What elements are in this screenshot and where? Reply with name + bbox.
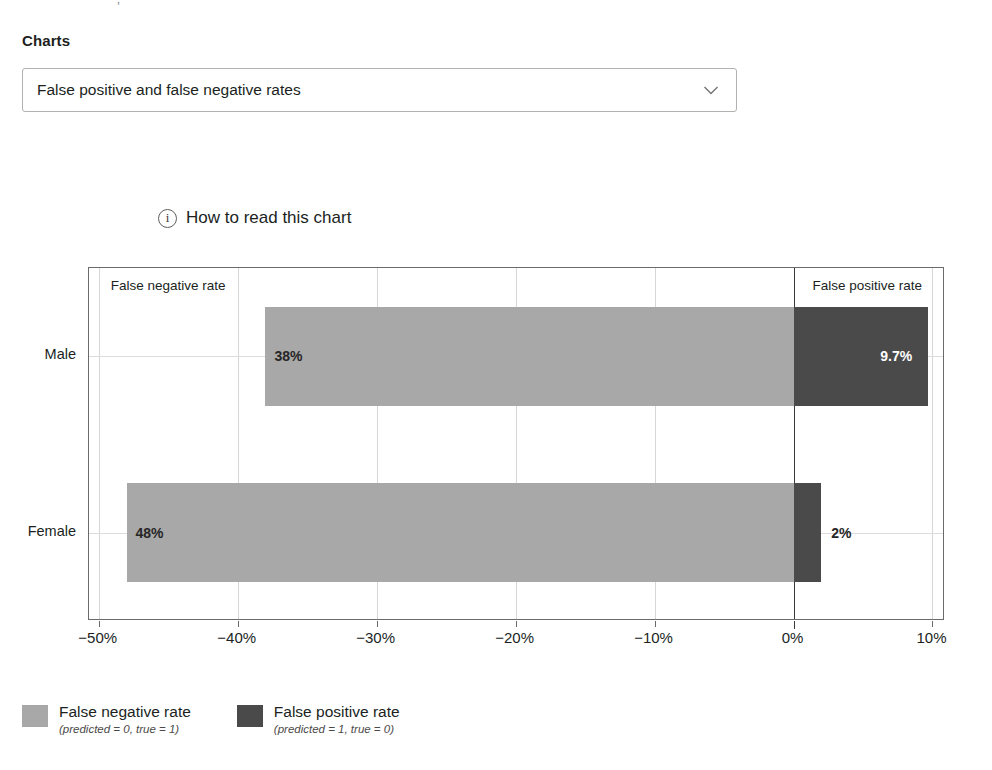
x-axis-tick <box>655 621 656 627</box>
legend-title: False negative rate <box>59 703 191 721</box>
legend-swatch-false-negative <box>22 705 48 727</box>
bar-false-positive-female[interactable] <box>794 483 822 582</box>
gridline-vertical <box>932 268 933 619</box>
bar-value-false-positive-male: 9.7% <box>880 348 912 364</box>
x-axis-tick <box>794 621 796 629</box>
x-axis-tick-label: −50% <box>78 629 117 646</box>
x-axis-tick-label: −30% <box>356 629 395 646</box>
bar-value-false-positive-female: 2% <box>831 525 851 541</box>
page-root: . ' Charts False positive and false nega… <box>0 0 992 770</box>
x-axis-tick <box>932 621 933 627</box>
x-axis-tick-label: −10% <box>634 629 673 646</box>
x-axis-tick <box>377 621 378 627</box>
bar-false-negative-female[interactable] <box>127 483 794 582</box>
gridline-vertical <box>99 268 100 619</box>
legend-item-false-positive[interactable]: False positive rate(predicted = 1, true … <box>237 703 400 737</box>
x-axis-tick <box>516 621 517 627</box>
y-axis-category-label: Male <box>0 346 76 362</box>
x-axis-tick-label: 0% <box>782 629 804 646</box>
false-positive-false-negative-chart: False negative rateFalse positive rate38… <box>0 0 992 770</box>
chart-plot-area: False negative rateFalse positive rate38… <box>88 267 944 620</box>
zone-label-false-negative: False negative rate <box>111 278 226 293</box>
x-axis-tick <box>238 621 239 627</box>
chart-legend: False negative rate(predicted = 0, true … <box>22 703 400 737</box>
x-axis-tick-label: −40% <box>217 629 256 646</box>
bar-value-false-negative-female: 48% <box>136 525 164 541</box>
legend-title: False positive rate <box>274 703 400 721</box>
legend-subtitle: (predicted = 0, true = 1) <box>59 723 191 737</box>
zone-label-false-positive: False positive rate <box>813 278 923 293</box>
x-axis-tick-label: −20% <box>495 629 534 646</box>
legend-swatch-false-positive <box>237 705 263 727</box>
bar-false-negative-male[interactable] <box>265 307 793 406</box>
y-axis-category-label: Female <box>0 523 76 539</box>
x-axis-tick <box>99 621 100 627</box>
x-axis-tick-label: 10% <box>916 629 946 646</box>
bar-value-false-negative-male: 38% <box>274 348 302 364</box>
legend-item-false-negative[interactable]: False negative rate(predicted = 0, true … <box>22 703 191 737</box>
legend-subtitle: (predicted = 1, true = 0) <box>274 723 400 737</box>
